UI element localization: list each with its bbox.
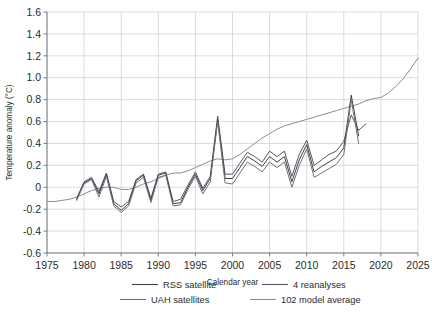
y-tick-label: 1.4 [26, 28, 41, 40]
legend-label: 102 model average [281, 295, 361, 305]
axes [44, 12, 419, 257]
gridlines [47, 12, 418, 253]
y-tick-label: 1.0 [26, 71, 41, 83]
x-tick-label: 1980 [72, 259, 96, 271]
y-tick-label: 1.6 [26, 6, 41, 18]
y-tick-label: 0.6 [26, 115, 41, 127]
legend-label: UAH satellites [151, 295, 210, 305]
series-line [77, 115, 366, 207]
x-tick-label: 2010 [295, 259, 319, 271]
x-tick-label: 2015 [332, 259, 356, 271]
x-tick-label: 1995 [184, 259, 208, 271]
chart-canvas: -0.6-0.4-0.200.20.40.60.81.01.21.41.6 19… [0, 0, 432, 318]
x-axis-tick-labels: 1975198019851990199520002005201020152020… [35, 259, 430, 271]
y-axis-title: Temperature anomaly (°C) [5, 84, 14, 180]
y-tick-label: -0.4 [23, 225, 41, 237]
x-tick-label: 1985 [110, 259, 134, 271]
y-tick-label: 0 [35, 181, 41, 193]
x-tick-label: 1975 [35, 259, 59, 271]
x-tick-label: 2005 [258, 259, 282, 271]
temperature-anomaly-chart: -0.6-0.4-0.200.20.40.60.81.01.21.41.6 19… [0, 0, 432, 318]
y-tick-label: 0.8 [26, 93, 41, 105]
y-tick-label: 0.2 [26, 159, 41, 171]
y-tick-label: -0.6 [23, 247, 41, 259]
x-tick-label: 2000 [221, 259, 245, 271]
y-tick-label: -0.2 [23, 203, 41, 215]
legend-label: 4 reanalyses [293, 280, 346, 290]
y-tick-label: 1.2 [26, 50, 41, 62]
series-line [77, 95, 359, 210]
x-tick-label: 2020 [369, 259, 393, 271]
x-tick-label: 1990 [147, 259, 171, 271]
x-tick-label: 2025 [406, 259, 430, 271]
y-tick-label: 0.4 [26, 137, 41, 149]
y-axis-tick-labels: -0.6-0.4-0.200.20.40.60.81.01.21.41.6 [23, 6, 41, 259]
legend-label: RSS satellite [163, 280, 216, 290]
